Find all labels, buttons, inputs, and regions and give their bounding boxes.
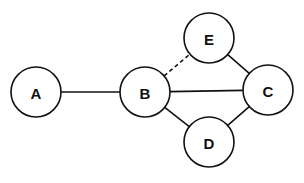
edge-b-c [170, 90, 243, 91]
nodes: ABCDE [11, 13, 293, 167]
node-b: B [120, 67, 170, 117]
edge-b-e [164, 54, 190, 76]
node-e: E [184, 13, 234, 63]
node-label: A [31, 85, 42, 102]
node-label: D [204, 135, 215, 152]
node-label: B [140, 85, 151, 102]
edge-b-d [165, 107, 190, 126]
edge-d-c [228, 107, 249, 126]
node-d: D [184, 117, 234, 167]
node-a: A [11, 67, 61, 117]
graph-diagram: ABCDE [0, 0, 304, 183]
edge-e-c [228, 55, 249, 74]
node-c: C [243, 65, 293, 115]
node-label: C [263, 83, 274, 100]
node-label: E [204, 31, 214, 48]
